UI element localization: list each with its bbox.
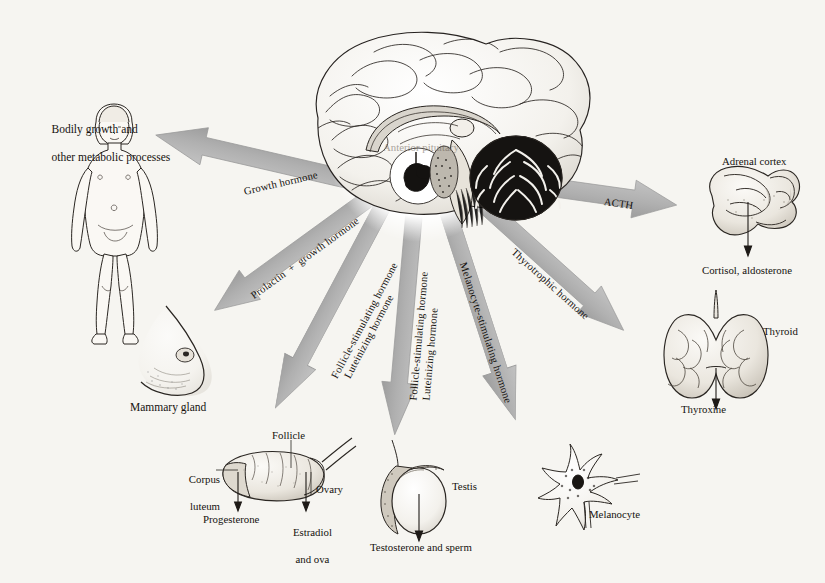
label-thyroid: Thyroid: [763, 325, 798, 338]
label-progesterone: Progesterone: [203, 513, 259, 526]
label-estradiol-and-ova: Estradiol and ova: [276, 513, 338, 579]
label-corpus-line1: Corpus: [189, 473, 220, 485]
label-cortisol-aldosterone: Cortisol, aldosterone: [702, 264, 792, 277]
label-follicle: Follicle: [272, 429, 305, 442]
label-bodily-growth-line2: other metabolic processes: [52, 151, 171, 163]
label-anterior-pituitary: Anterior pituitary: [383, 141, 459, 154]
testis-illustration: [381, 440, 446, 541]
mammary-gland-illustration: [139, 306, 212, 396]
anatomy-layer: [0, 0, 825, 583]
adrenal-cortex-illustration: [710, 166, 800, 256]
label-bodily-growth-line1: Bodily growth and: [52, 123, 138, 135]
label-mammary-gland: Mammary gland: [130, 400, 206, 414]
hormone-pathway-figure: Bodily growth and other metabolic proces…: [0, 0, 825, 583]
label-ovary: Ovary: [316, 483, 343, 496]
label-testis: Testis: [452, 480, 477, 493]
label-adrenal-cortex: Adrenal cortex: [722, 155, 786, 168]
ovary-illustration: [216, 438, 356, 511]
label-estradiol-line1: Estradiol: [293, 526, 332, 538]
cerebellum: [470, 136, 562, 220]
label-thyroxine: Thyroxine: [681, 403, 726, 416]
label-melanocyte: Melanocyte: [589, 508, 640, 521]
label-testosterone-and-sperm: Testosterone and sperm: [370, 541, 472, 554]
thyroid-illustration: [664, 290, 768, 409]
label-estradiol-line2: and ova: [295, 553, 329, 565]
label-corpus-line2: luteum: [190, 500, 220, 512]
label-bodily-growth: Bodily growth and other metabolic proces…: [40, 108, 170, 178]
